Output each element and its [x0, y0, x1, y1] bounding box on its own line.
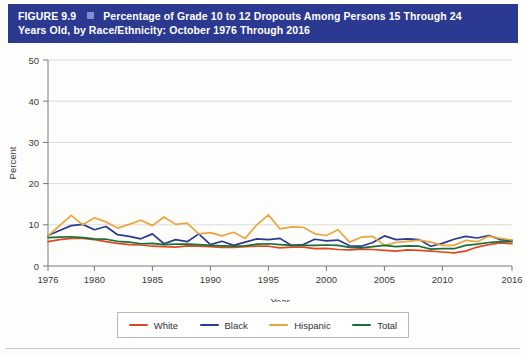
svg-text:1995: 1995: [258, 274, 279, 285]
legend-swatch-total: [352, 324, 371, 327]
chart-x-axis-label: Year: [270, 296, 289, 302]
chart-x-axis-ticks: 197619801985199019952000200520102016: [37, 266, 522, 285]
legend-label-hispanic: Hispanic: [294, 320, 330, 331]
chart-y-axis-label: Percent: [7, 146, 18, 179]
legend-swatch-hispanic: [269, 324, 288, 327]
svg-text:2010: 2010: [432, 274, 453, 285]
chart-legend: White Black Hispanic Total: [117, 312, 409, 338]
legend-swatch-white: [129, 324, 148, 327]
legend-item-black: Black: [200, 320, 248, 331]
page-bottom-rule: [6, 348, 520, 349]
svg-text:20: 20: [28, 178, 39, 189]
figure-title-text-1: Percentage of Grade 10 to 12 Dropouts Am…: [103, 10, 462, 22]
svg-text:2005: 2005: [374, 274, 395, 285]
svg-text:30: 30: [28, 137, 39, 148]
figure-container: FIGURE 9.9Percentage of Grade 10 to 12 D…: [0, 0, 526, 356]
svg-text:2000: 2000: [316, 274, 337, 285]
chart-plot-area: 01020304050 1976198019851990199520002005…: [0, 52, 526, 302]
figure-title-line-1: FIGURE 9.9Percentage of Grade 10 to 12 D…: [18, 9, 510, 23]
svg-text:1985: 1985: [142, 274, 163, 285]
chart-series-lines: [48, 215, 512, 253]
figure-number: FIGURE 9.9: [18, 10, 76, 22]
legend-item-hispanic: Hispanic: [269, 320, 330, 331]
svg-text:1980: 1980: [84, 274, 105, 285]
legend-label-white: White: [154, 320, 178, 331]
chart-y-axis-ticks: 01020304050: [28, 55, 48, 272]
figure-title-banner: FIGURE 9.9Percentage of Grade 10 to 12 D…: [8, 4, 518, 43]
legend-label-black: Black: [225, 320, 248, 331]
svg-text:40: 40: [28, 96, 39, 107]
legend-item-white: White: [129, 320, 178, 331]
svg-text:1976: 1976: [37, 274, 58, 285]
svg-text:10: 10: [28, 219, 39, 230]
line-chart-svg: 01020304050 1976198019851990199520002005…: [0, 52, 526, 302]
figure-title-line-2: Years Old, by Race/Ethnicity: October 19…: [18, 23, 510, 37]
legend-swatch-black: [200, 324, 219, 327]
svg-text:0: 0: [34, 261, 39, 272]
svg-text:50: 50: [28, 55, 39, 66]
svg-text:1990: 1990: [200, 274, 221, 285]
legend-item-total: Total: [352, 320, 397, 331]
legend-label-total: Total: [377, 320, 397, 331]
bullet-square-icon: [87, 12, 94, 19]
chart-gridlines: [48, 60, 512, 225]
svg-text:2016: 2016: [501, 274, 522, 285]
